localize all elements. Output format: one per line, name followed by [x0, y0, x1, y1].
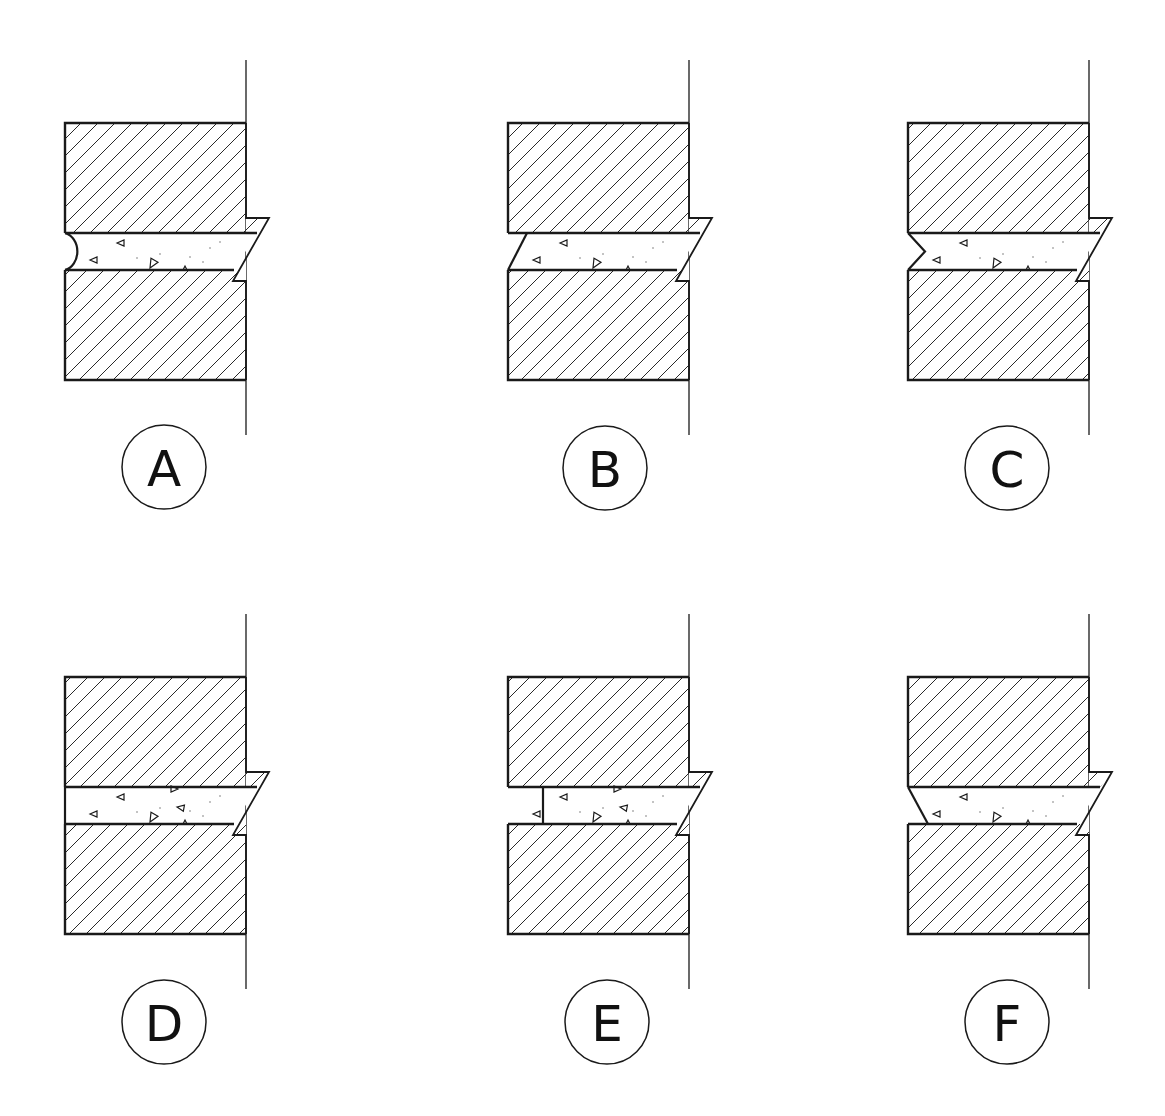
mortar-speckle — [979, 257, 981, 259]
label-b: B — [563, 426, 647, 510]
mortar-speckle — [1052, 247, 1054, 249]
panel-d-flush-joint — [65, 614, 269, 989]
top-brick — [908, 123, 1089, 233]
mortar-speckle — [189, 810, 191, 812]
top-brick — [908, 677, 1089, 787]
mortar-speckle — [652, 247, 654, 249]
label-text: D — [145, 995, 184, 1053]
mortar-speckle — [632, 256, 634, 258]
mortar-speckle — [652, 801, 654, 803]
top-brick — [508, 123, 689, 233]
bottom-brick — [65, 270, 246, 380]
mortar-speckle — [159, 807, 161, 809]
mortar-fill — [508, 233, 700, 270]
mortar-speckle — [602, 253, 604, 255]
label-c: C — [965, 426, 1049, 510]
mortar-speckle — [202, 261, 204, 263]
mortar-speckle — [1032, 810, 1034, 812]
panel-e-raked-joint — [508, 614, 712, 989]
label-text: E — [591, 995, 623, 1053]
bottom-brick — [908, 824, 1089, 934]
mortar-fill — [543, 787, 700, 824]
panel-f-struck-joint — [908, 614, 1112, 989]
mortar-speckle — [1002, 253, 1004, 255]
mortar-speckle — [662, 241, 664, 243]
mortar-speckle — [645, 815, 647, 817]
aggregate-mark — [533, 811, 540, 817]
mortar-speckle — [202, 815, 204, 817]
label-d: D — [122, 980, 206, 1064]
mortar-speckle — [1002, 807, 1004, 809]
label-text: C — [990, 441, 1025, 499]
panel-c-v-joint — [908, 60, 1112, 435]
mortar-speckle — [136, 811, 138, 813]
label-e: E — [565, 980, 649, 1064]
label-a: A — [122, 425, 206, 509]
mortar-speckle — [209, 247, 211, 249]
mortar-speckle — [136, 257, 138, 259]
panel-a-concave-joint — [65, 60, 269, 435]
mortar-fill — [908, 233, 1100, 270]
mortar-fill — [65, 233, 257, 270]
mortar-speckle — [645, 261, 647, 263]
mortar-speckle — [219, 241, 221, 243]
mortar-speckle — [662, 795, 664, 797]
mortar-speckle — [602, 807, 604, 809]
mortar-speckle — [579, 257, 581, 259]
mortar-speckle — [1062, 241, 1064, 243]
panel-b-weathered-joint — [508, 60, 712, 435]
bottom-brick — [908, 270, 1089, 380]
mortar-speckle — [979, 811, 981, 813]
mortar-speckle — [1045, 261, 1047, 263]
top-brick — [65, 123, 246, 233]
top-brick — [508, 677, 689, 787]
bottom-brick — [508, 270, 689, 380]
label-text: B — [588, 441, 622, 499]
mortar-speckle — [219, 795, 221, 797]
mortar-speckle — [189, 256, 191, 258]
mortar-fill — [65, 787, 257, 824]
mortar-speckle — [209, 801, 211, 803]
mortar-joint-diagram: A B C D E F — [0, 0, 1165, 1116]
top-brick — [65, 677, 246, 787]
mortar-speckle — [632, 810, 634, 812]
mortar-speckle — [1045, 815, 1047, 817]
mortar-fill — [908, 787, 1100, 824]
mortar-speckle — [579, 811, 581, 813]
label-f: F — [965, 980, 1049, 1064]
label-text: A — [147, 440, 181, 498]
label-text: F — [993, 995, 1022, 1053]
mortar-speckle — [1062, 795, 1064, 797]
bottom-brick — [65, 824, 246, 934]
bottom-brick — [508, 824, 689, 934]
mortar-speckle — [1052, 801, 1054, 803]
mortar-speckle — [1032, 256, 1034, 258]
mortar-speckle — [159, 253, 161, 255]
